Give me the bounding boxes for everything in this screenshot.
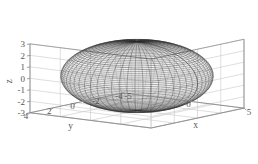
y-axis-title: y <box>68 121 73 131</box>
ytick-label: -2 <box>92 96 100 106</box>
ytick-label: 0 <box>70 101 75 111</box>
ztick-label: 3 <box>21 39 26 49</box>
xtick-label: -5 <box>124 91 132 101</box>
ytick-label: -4 <box>115 91 123 101</box>
ztick-label: 1 <box>21 62 26 72</box>
ytick-label: 2 <box>47 106 52 116</box>
ztick-label: 0 <box>21 74 26 84</box>
figure-canvas: 3210-1-2-3420-2-4-505 zyx <box>0 0 258 164</box>
xtick-label: 5 <box>247 107 252 117</box>
x-axis-title: x <box>193 120 198 130</box>
ztick-label: -1 <box>18 85 26 95</box>
3d-surface-plot: 3210-1-2-3420-2-4-505 zyx <box>0 0 258 164</box>
ztick-label: 2 <box>21 51 26 61</box>
z-axis-title: z <box>4 79 14 83</box>
ytick-label: 4 <box>24 111 29 121</box>
ztick-label: -2 <box>18 97 26 107</box>
xtick-label: 0 <box>186 99 191 109</box>
plot-background <box>0 0 258 164</box>
